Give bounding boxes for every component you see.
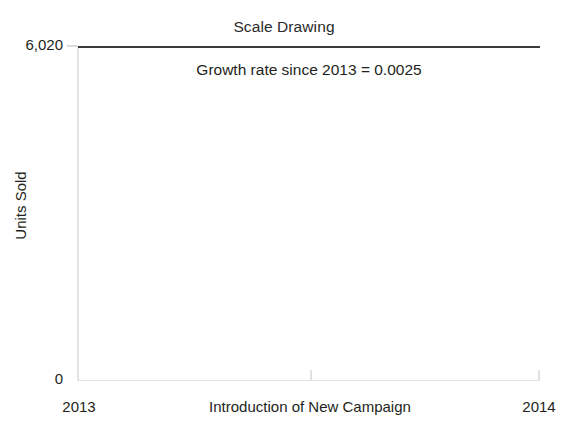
x-axis-tick-right — [538, 370, 540, 381]
chart-figure: Scale Drawing 6,020 0 2013 2014 Units So… — [0, 0, 568, 433]
x-axis-line — [77, 380, 540, 382]
y-axis-tick-label-bottom: 0 — [0, 370, 63, 387]
x-axis-title: Introduction of New Campaign — [140, 398, 480, 415]
x-axis-tick-label-left: 2013 — [52, 398, 106, 415]
y-axis-line — [77, 47, 79, 381]
x-axis-tick-label-right: 2014 — [512, 398, 566, 415]
growth-rate-annotation: Growth rate since 2013 = 0.0025 — [78, 61, 540, 79]
plot-area — [78, 47, 540, 380]
y-axis-title: Units Sold — [12, 126, 29, 286]
x-axis-tick-mid — [310, 370, 312, 381]
chart-title: Scale Drawing — [0, 18, 568, 36]
series-line-units-sold — [78, 46, 540, 48]
y-axis-tick-label-top: 6,020 — [0, 36, 63, 53]
y-axis-tick-top — [67, 45, 78, 47]
